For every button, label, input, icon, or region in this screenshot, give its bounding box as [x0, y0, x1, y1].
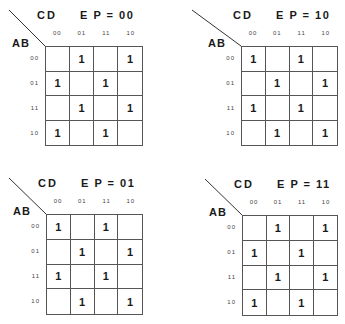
map-title: E P = 01 [81, 177, 135, 189]
kmap-cell: 1 [290, 241, 314, 266]
kmap-cell: 1 [47, 265, 71, 290]
kmap-cell [243, 216, 267, 241]
row-variable-label: AB [208, 37, 226, 49]
kmap-cell [46, 47, 70, 72]
kmap-cell: 1 [266, 72, 290, 97]
kmap-cell [313, 47, 337, 72]
row-header: 01 [220, 249, 236, 255]
kmap-cell: 1 [290, 96, 314, 121]
kmap-cell [47, 240, 71, 265]
kmap-cell [314, 290, 338, 315]
kmap-cell [47, 289, 71, 314]
map-title: E P = 11 [277, 178, 331, 190]
kmap-cell [70, 121, 94, 146]
kmap-cell [71, 265, 95, 290]
kmap-cell: 1 [70, 96, 94, 121]
kmap-cell: 1 [243, 241, 267, 266]
row-variable-label: AB [13, 205, 31, 217]
map-title: E P = 00 [80, 9, 134, 21]
kmap-cell: 1 [95, 265, 119, 290]
kmap-1: CDE P = 10AB000111100001111011111111 [172, 0, 344, 162]
kmap-2: CDE P = 01AB000111100001111011111111 [0, 162, 172, 324]
row-header: 00 [24, 223, 40, 229]
kmap-cell [118, 265, 142, 290]
column-variable-label: CD [38, 177, 58, 189]
kmap-cell: 1 [46, 72, 70, 97]
row-header: 01 [219, 80, 235, 86]
kmap-cell: 1 [290, 290, 314, 315]
kmap-grid: 11111111 [241, 46, 338, 146]
column-header: 01 [265, 30, 289, 36]
column-header: 00 [46, 198, 70, 204]
kmap-cell [290, 266, 314, 291]
column-header: 10 [119, 30, 143, 36]
kmap-cell [242, 72, 266, 97]
kmap-cell: 1 [47, 215, 71, 240]
kmap-cell [266, 47, 290, 72]
kmap-cell [267, 290, 291, 315]
kmap-cell: 1 [267, 216, 291, 241]
kmap-cell [290, 72, 314, 97]
column-header: 11 [95, 198, 119, 204]
column-variable-label: CD [233, 9, 253, 21]
kmap-cell [118, 121, 142, 146]
kmap-cell [94, 96, 118, 121]
kmap-grid: 11111111 [242, 215, 338, 316]
row-header: 01 [23, 80, 39, 86]
row-header: 00 [23, 55, 39, 61]
kmap-cell [313, 96, 337, 121]
kmap-cell: 1 [118, 47, 142, 72]
row-header: 10 [219, 130, 235, 136]
kmap-cell: 1 [71, 240, 95, 265]
kmap-cell: 1 [313, 121, 337, 146]
row-header: 11 [220, 274, 236, 280]
kmap-cell: 1 [290, 47, 314, 72]
kmap-3: CDE P = 11AB000111100001111011111111 [172, 162, 344, 324]
kmap-cell: 1 [94, 121, 118, 146]
column-variable-label: CD [234, 178, 254, 190]
kmap-cell [70, 72, 94, 97]
kmap-cell: 1 [314, 266, 338, 291]
kmap-cell [267, 241, 291, 266]
column-header: 00 [45, 30, 69, 36]
kmap-grid: 11111111 [46, 214, 143, 315]
kmap-cell [118, 72, 142, 97]
kmap-cell [46, 96, 70, 121]
kmap-cell [94, 47, 118, 72]
kmap-cell [266, 96, 290, 121]
kmap-cell [243, 266, 267, 291]
column-header: 11 [290, 30, 314, 36]
kmap-0: CDE P = 00AB000111100001111011111111 [0, 0, 172, 162]
column-header: 11 [290, 199, 314, 205]
kmap-cell [71, 215, 95, 240]
kmap-cell: 1 [118, 289, 142, 314]
kmap-cell: 1 [313, 72, 337, 97]
column-header: 00 [241, 30, 265, 36]
kmap-cell [95, 240, 119, 265]
column-header: 00 [242, 199, 266, 205]
kmap-cell: 1 [314, 216, 338, 241]
row-header: 10 [220, 299, 236, 305]
kmap-cell: 1 [118, 96, 142, 121]
kmap-cell: 1 [267, 266, 291, 291]
kmap-cell [290, 121, 314, 146]
row-header: 00 [219, 55, 235, 61]
row-header: 00 [220, 224, 236, 230]
kmap-cell [118, 215, 142, 240]
row-header: 10 [24, 298, 40, 304]
kmap-cell [95, 289, 119, 314]
row-header: 11 [24, 273, 40, 279]
row-header: 11 [219, 105, 235, 111]
kmap-cell [314, 241, 338, 266]
kmap-cell: 1 [242, 96, 266, 121]
kmap-cell: 1 [242, 47, 266, 72]
column-variable-label: CD [37, 9, 57, 21]
row-header: 11 [23, 105, 39, 111]
kmap-cell: 1 [46, 121, 70, 146]
column-header: 10 [314, 30, 338, 36]
kmap-cell: 1 [243, 290, 267, 315]
column-header: 01 [70, 198, 94, 204]
kmap-cell [242, 121, 266, 146]
row-header: 01 [24, 248, 40, 254]
column-header: 01 [70, 30, 94, 36]
